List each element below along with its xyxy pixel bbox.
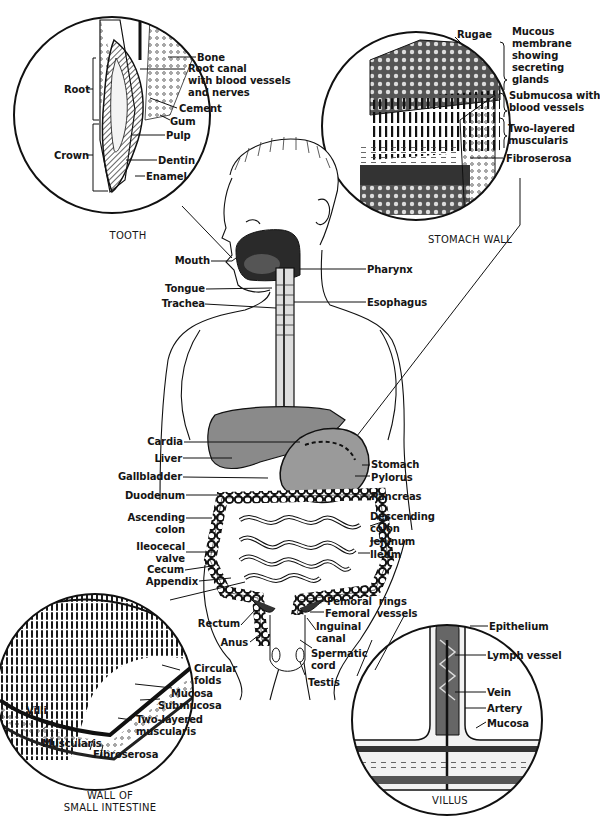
- label-root-canal: Root canal with blood vessels and nerves: [188, 63, 291, 99]
- caption-tooth: TOOTH: [108, 230, 148, 242]
- label-si-two-layered-muscularis: Two-layered muscularis: [136, 714, 203, 738]
- label-testis: Testis: [308, 677, 340, 688]
- label-crown: Crown: [54, 150, 89, 161]
- label-tongue: Tongue: [150, 283, 205, 294]
- label-esophagus: Esophagus: [367, 297, 427, 308]
- label-spermatic-cord: Spermatic cord: [311, 648, 367, 672]
- caption-villus: VILLUS: [420, 795, 480, 807]
- caption-stomach-wall: STOMACH WALL: [420, 234, 520, 246]
- label-cecum: Cecum: [110, 564, 184, 575]
- label-inguinal-canal: Inguinal canal: [316, 621, 361, 645]
- label-pulp: Pulp: [166, 130, 191, 141]
- label-si-muscularis: Muscularis: [42, 738, 102, 749]
- label-si-submucosa: Submucosa: [158, 700, 222, 711]
- label-root: Root: [64, 84, 90, 95]
- label-stomach-fibroserosa: Fibroserosa: [506, 153, 571, 164]
- label-lymph-vessel: Lymph vessel: [487, 650, 562, 661]
- label-femoral-rings: Femoral rings: [327, 596, 407, 607]
- label-jejunum: Jejunum: [370, 536, 415, 547]
- label-ileocecal-valve: Ileocecal valve: [110, 541, 185, 565]
- label-mouth: Mouth: [160, 255, 210, 266]
- label-trachea: Trachea: [150, 298, 205, 309]
- label-gallbladder: Gallbladder: [100, 471, 182, 482]
- label-cardia: Cardia: [120, 436, 183, 447]
- label-villi: Villi: [26, 705, 47, 716]
- label-enamel: Enamel: [146, 171, 187, 182]
- label-descending-colon: Descending colon: [370, 511, 435, 535]
- label-pharynx: Pharynx: [367, 264, 413, 275]
- label-rugae: Rugae: [457, 29, 492, 40]
- label-stomach: Stomach: [371, 459, 419, 470]
- label-ileum: Ileum: [370, 549, 401, 560]
- label-stomach-muscularis: Two-layered muscularis: [508, 123, 575, 147]
- label-femoral-vessels: Femoral vessels: [325, 608, 417, 619]
- label-anus: Anus: [210, 637, 248, 648]
- label-bone: Bone: [197, 52, 225, 63]
- label-mucous-membrane: Mucous membrane showing secreting glands: [512, 26, 572, 86]
- label-pylorus: Pylorus: [371, 472, 413, 483]
- villus-inset: [350, 610, 545, 790]
- stomach-wall-inset: [360, 40, 500, 220]
- label-villus-mucosa: Mucosa: [487, 718, 529, 729]
- caption-small-intestine: WALL OF SMALL INTESTINE: [50, 790, 170, 814]
- label-liver: Liver: [120, 453, 182, 464]
- label-gum: Gum: [170, 116, 195, 127]
- label-ascending-colon: Ascending colon: [110, 512, 185, 536]
- label-rectum: Rectum: [190, 618, 240, 629]
- label-circular-folds: Circular folds: [194, 663, 237, 687]
- label-pancreas: Pancreas: [371, 491, 421, 502]
- label-cement: Cement: [179, 103, 222, 114]
- label-si-mucosa: Mucosa: [171, 688, 213, 699]
- label-si-fibroserosa: Fibroserosa: [93, 749, 158, 760]
- label-artery: Artery: [487, 703, 522, 714]
- label-duodenum: Duodenum: [110, 490, 185, 501]
- label-appendix: Appendix: [120, 576, 198, 587]
- label-vein: Vein: [487, 687, 511, 698]
- label-dentin: Dentin: [158, 155, 195, 166]
- label-epithelium: Epithelium: [489, 621, 549, 632]
- label-stomach-submucosa: Submucosa with blood vessels: [509, 90, 600, 114]
